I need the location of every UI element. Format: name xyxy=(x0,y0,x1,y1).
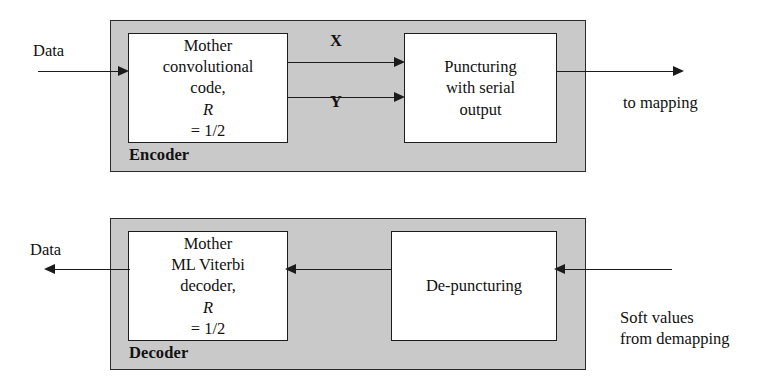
arrowhead-right-icon xyxy=(118,66,129,76)
block-mother-convolutional-code: Mother convolutional code, R = 1/2 xyxy=(128,33,288,143)
decoder-caption: Decoder xyxy=(129,343,188,363)
block-line-3: output xyxy=(444,99,516,120)
block-line-1: De-puncturing xyxy=(426,275,522,296)
block-line-2: with serial xyxy=(444,77,516,98)
block-line-1: Puncturing xyxy=(444,56,516,77)
signal-y-label: Y xyxy=(330,91,342,112)
arrowhead-right-icon xyxy=(394,57,405,67)
block-line-3: code, R = 1/2 xyxy=(163,77,254,140)
arrowhead-right-icon xyxy=(673,66,684,76)
wire-depuncturing-to-viterbi xyxy=(288,269,392,270)
block-line-3-suffix: = 1/2 xyxy=(171,318,245,339)
signal-x-label: X xyxy=(330,30,342,51)
wire-puncturing-to-mapping xyxy=(557,71,679,72)
block-puncturing-with-serial-output: Puncturing with serial output xyxy=(404,33,557,143)
arrowhead-right-icon xyxy=(394,92,405,102)
decoder-output-label: Data xyxy=(30,239,61,260)
arrowhead-left-icon xyxy=(44,264,55,274)
block-de-puncturing: De-puncturing xyxy=(391,231,557,341)
block-line-3-prefix: decoder, xyxy=(171,275,245,296)
block-line-1: Mother xyxy=(163,35,254,56)
diagram-canvas: Mother convolutional code, R = 1/2 Punct… xyxy=(0,0,767,383)
wire-decoder-to-data xyxy=(55,269,130,270)
block-line-3-suffix: = 1/2 xyxy=(163,120,254,141)
encoder-output-label: to mapping xyxy=(623,92,698,113)
rate-symbol: R xyxy=(171,297,245,318)
wire-y-to-puncturing xyxy=(288,97,397,98)
encoder-input-label: Data xyxy=(33,40,64,61)
wire-soft-values-to-depuncturing xyxy=(557,269,672,270)
rate-symbol: R xyxy=(163,99,254,120)
block-line-1: Mother xyxy=(171,233,245,254)
wire-data-to-encoder xyxy=(38,71,122,72)
wire-x-to-puncturing xyxy=(288,62,397,63)
block-line-2: ML Viterbi xyxy=(171,254,245,275)
block-mother-ml-viterbi-decoder: Mother ML Viterbi decoder, R = 1/2 xyxy=(128,231,288,341)
block-line-3: decoder, R = 1/2 xyxy=(171,275,245,338)
arrowhead-left-icon xyxy=(285,264,296,274)
block-line-2: convolutional xyxy=(163,56,254,77)
block-line-3-prefix: code, xyxy=(163,77,254,98)
encoder-caption: Encoder xyxy=(129,145,189,165)
arrowhead-left-icon xyxy=(554,264,565,274)
decoder-input-label: Soft values from demapping xyxy=(620,307,730,349)
decoder-input-label-line-1: Soft values xyxy=(620,307,730,328)
decoder-input-label-line-2: from demapping xyxy=(620,328,730,349)
